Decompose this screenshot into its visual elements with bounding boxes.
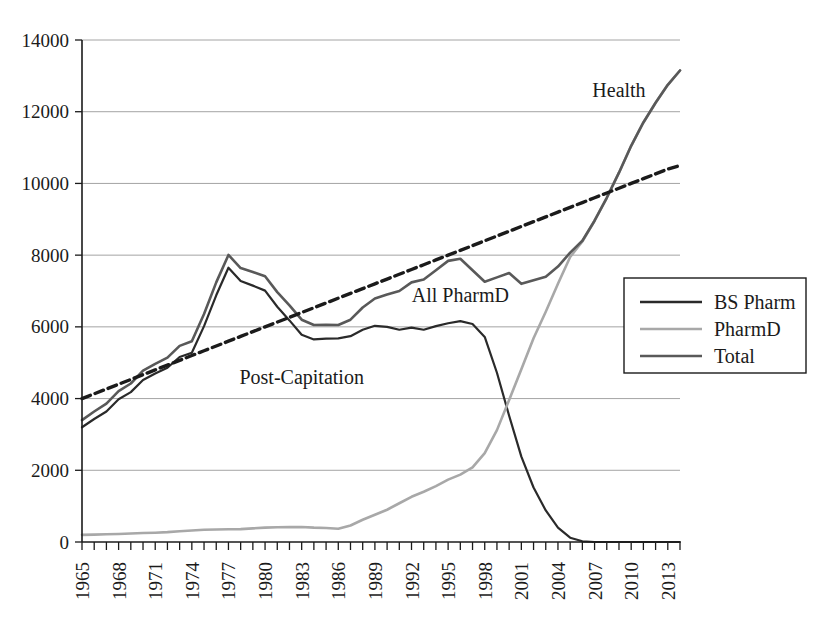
x-tick-label: 1977 [218, 562, 239, 600]
series-line-bs-pharm [82, 268, 680, 542]
x-tick-label: 2004 [548, 562, 569, 601]
x-axis-labels-group: 1965196819711974197719801983198619891992… [72, 562, 679, 601]
data-series-group [82, 70, 680, 542]
y-tick-label: 8000 [31, 245, 69, 266]
x-tick-label: 2007 [585, 562, 606, 600]
line-chart: 02000400060008000100001200014000 1965196… [0, 0, 827, 631]
annotations-group: HealthAll PharmDPost-Capitation [239, 79, 645, 389]
annotation-health: Health [592, 79, 645, 101]
annotation-all-pharmd: All PharmD [412, 284, 509, 306]
x-tick-label: 1995 [438, 562, 459, 600]
x-tick-label: 1986 [328, 562, 349, 600]
x-tick-label: 1992 [402, 562, 423, 600]
series-line-total [82, 70, 680, 420]
x-tick-label: 1971 [145, 562, 166, 600]
x-tick-label: 2013 [658, 562, 679, 600]
x-tick-label: 1983 [292, 562, 313, 600]
legend-label-pharmd[interactable]: PharmD [714, 318, 781, 340]
y-axis-labels-group: 02000400060008000100001200014000 [22, 30, 70, 553]
x-axis-ticks-group [82, 542, 680, 550]
chart-container: 02000400060008000100001200014000 1965196… [0, 0, 827, 631]
y-tick-label: 0 [60, 532, 70, 553]
annotation-post-capitation: Post-Capitation [239, 366, 363, 389]
y-tick-label: 12000 [22, 101, 70, 122]
y-tick-label: 14000 [22, 30, 70, 51]
legend-label-bs-pharm[interactable]: BS Pharm [714, 291, 796, 313]
y-tick-label: 6000 [31, 316, 69, 337]
legend[interactable]: BS PharmPharmDTotal [624, 278, 806, 373]
y-tick-label: 4000 [31, 388, 69, 409]
x-tick-label: 2010 [621, 562, 642, 600]
series-line-pharmd [82, 70, 680, 534]
x-tick-label: 1998 [475, 562, 496, 600]
x-tick-label: 2001 [511, 562, 532, 600]
y-tick-label: 2000 [31, 460, 69, 481]
x-tick-label: 1974 [182, 562, 203, 601]
x-tick-label: 1965 [72, 562, 93, 600]
y-axis-ticks-group [75, 40, 82, 542]
legend-label-total[interactable]: Total [714, 345, 755, 367]
gridlines-group [82, 40, 680, 470]
x-tick-label: 1989 [365, 562, 386, 600]
x-tick-label: 1968 [109, 562, 130, 600]
x-tick-label: 1980 [255, 562, 276, 600]
y-tick-label: 10000 [22, 173, 70, 194]
